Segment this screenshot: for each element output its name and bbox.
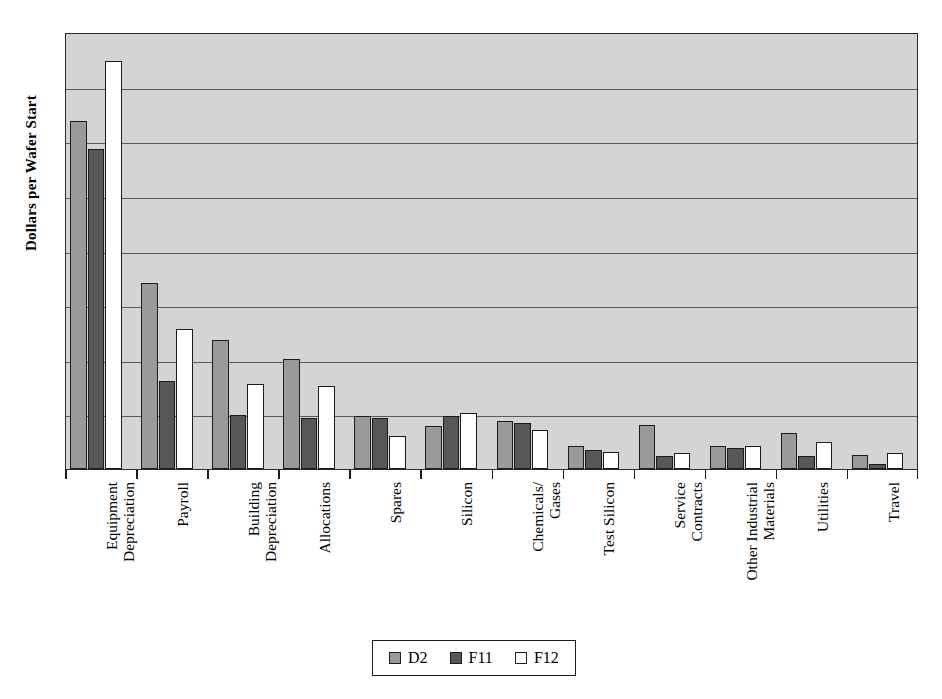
bar-f12: [887, 453, 904, 469]
bar-d2: [497, 421, 514, 469]
bar-group: [425, 34, 477, 469]
legend-entry[interactable]: F11: [450, 649, 493, 667]
bar-f12: [745, 446, 762, 469]
y-axis-title-container: Dollars per Wafer Start: [0, 33, 62, 470]
bar-group: [70, 34, 122, 469]
bar-f12: [816, 442, 833, 469]
bar-d2: [710, 446, 727, 469]
x-axis-tick: [349, 470, 351, 479]
x-axis-tick-label: Travel: [885, 482, 902, 622]
legend-swatch-icon: [515, 652, 527, 664]
x-axis-tick-labels: EquipmentDepreciationPayrollBuildingDepr…: [65, 482, 918, 622]
x-axis-tick-label: BuildingDepreciation: [245, 482, 279, 622]
bar-f11: [514, 423, 531, 469]
bar-d2: [781, 433, 798, 469]
y-axis-title: Dollars per Wafer Start: [23, 95, 40, 251]
bar-d2: [283, 359, 300, 469]
bar-d2: [354, 416, 371, 469]
x-axis-tick-label: Test Silicon: [600, 482, 617, 622]
x-axis-tick: [563, 470, 565, 479]
legend-label: F12: [534, 649, 559, 667]
bar-group: [141, 34, 193, 469]
bar-f11: [372, 418, 389, 469]
bar-group: [354, 34, 406, 469]
bar-group: [639, 34, 691, 469]
x-axis-tick: [917, 470, 919, 479]
x-axis-tick: [776, 470, 778, 479]
bar-d2: [212, 340, 229, 469]
x-axis-tick-label: Other IndustrialMaterials: [743, 482, 777, 622]
x-axis-tick-label: Allocations: [316, 482, 333, 622]
bar-f11: [585, 450, 602, 469]
bar-f11: [798, 456, 815, 469]
bar-group: [852, 34, 904, 469]
bar-group: [497, 34, 549, 469]
bar-d2: [70, 121, 87, 470]
bar-d2: [425, 426, 442, 469]
bar-group: [568, 34, 620, 469]
bar-f11: [230, 415, 247, 469]
bar-f12: [674, 453, 691, 469]
x-axis-tick: [847, 470, 849, 479]
bar-chart-figure: Dollars per Wafer Start EquipmentDepreci…: [0, 0, 942, 699]
bar-f11: [727, 448, 744, 469]
bar-d2: [639, 425, 656, 469]
bar-group: [781, 34, 833, 469]
x-axis-tick: [65, 470, 67, 479]
bar-f11: [159, 381, 176, 469]
legend-swatch-icon: [389, 652, 401, 664]
x-axis-tick: [420, 470, 422, 479]
bar-d2: [852, 455, 869, 469]
x-axis-tick-label: Silicon: [458, 482, 475, 622]
bar-f11: [88, 149, 105, 469]
legend-label: F11: [469, 649, 493, 667]
bar-d2: [141, 283, 158, 469]
bar-f12: [460, 413, 477, 469]
bar-f12: [176, 329, 193, 469]
bar-f12: [389, 436, 406, 469]
x-axis-tick: [634, 470, 636, 479]
x-axis-ticks: [65, 470, 918, 480]
bar-f11: [443, 416, 460, 469]
bar-group: [283, 34, 335, 469]
x-axis-tick-label: Spares: [387, 482, 404, 622]
x-axis-tick: [136, 470, 138, 479]
x-axis-tick-label: Utilities: [814, 482, 831, 622]
chart-legend: D2F11F12: [372, 640, 576, 676]
bar-f12: [105, 61, 122, 469]
x-axis-tick-label: ServiceContracts: [671, 482, 705, 622]
bar-f12: [532, 430, 549, 469]
x-axis-tick-label: EquipmentDepreciation: [103, 482, 137, 622]
legend-swatch-icon: [450, 652, 462, 664]
legend-entry[interactable]: D2: [389, 649, 428, 667]
legend-label: D2: [408, 649, 428, 667]
bar-f12: [603, 452, 620, 469]
bar-d2: [568, 446, 585, 469]
x-axis-tick-label: Payroll: [174, 482, 191, 622]
bar-f11: [869, 464, 886, 469]
legend-entry[interactable]: F12: [515, 649, 559, 667]
plot-area: [65, 33, 918, 470]
bar-f11: [656, 456, 673, 469]
bar-group: [212, 34, 264, 469]
x-axis-tick: [705, 470, 707, 479]
bar-f12: [247, 384, 264, 469]
x-axis-tick-label: Chemicals/Gases: [529, 482, 563, 622]
bar-f11: [301, 418, 318, 469]
bar-f12: [318, 386, 335, 469]
x-axis-tick: [492, 470, 494, 479]
x-axis-tick: [207, 470, 209, 479]
bar-group: [710, 34, 762, 469]
x-axis-tick: [278, 470, 280, 479]
bars-group: [66, 34, 917, 469]
